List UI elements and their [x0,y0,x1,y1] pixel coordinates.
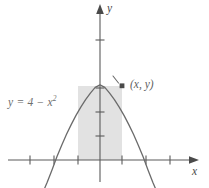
y-axis-label: y [107,3,112,15]
parabola-figure: y = 4 − x2 (x, y) y x [0,0,209,188]
curve-equation-exponent: 2 [53,94,57,103]
curve-equation-label: y = 4 − x2 [8,97,57,109]
point-leader-line [113,76,119,83]
x-axis-arrow-icon [189,156,199,164]
point-marker [120,83,125,88]
point-coordinates-label: (x, y) [130,79,154,91]
x-axis-label: x [192,166,197,178]
curve-equation-text: y = 4 − x [8,96,53,108]
plot-canvas [0,0,209,188]
y-axis-arrow-icon [96,4,104,14]
